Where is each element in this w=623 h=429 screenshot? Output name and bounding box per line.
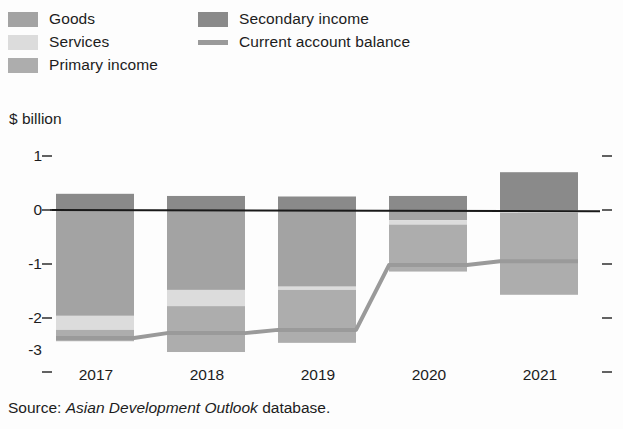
- source-note: Source: Asian Development Outlook databa…: [8, 399, 330, 417]
- y-tick-label: -2: [8, 309, 42, 327]
- chart-plot-area: [0, 0, 623, 429]
- bar-segment: [167, 306, 245, 352]
- source-prefix: Source:: [8, 399, 66, 416]
- x-tick-label-2019: 2019: [278, 366, 358, 384]
- bar-segment: [278, 290, 356, 343]
- x-tick-label-2021: 2021: [500, 366, 580, 384]
- bar-segment: [278, 197, 356, 211]
- x-tick-label-2018: 2018: [167, 366, 247, 384]
- bar-segment: [56, 210, 134, 316]
- y-tick-label: -3: [8, 341, 42, 359]
- y-tick-label: 0: [8, 201, 42, 219]
- bar-segment: [56, 316, 134, 330]
- bar-segment: [167, 210, 245, 290]
- bar-segment: [500, 213, 578, 295]
- bar-segment: [167, 290, 245, 306]
- bar-segment: [389, 196, 467, 210]
- bar-segment: [56, 194, 134, 210]
- zero-baseline: [50, 210, 600, 211]
- bar-segment: [278, 287, 356, 290]
- x-tick-label-2020: 2020: [389, 366, 469, 384]
- bar-segment: [389, 220, 467, 224]
- source-suffix: database.: [258, 399, 330, 416]
- bar-segment: [500, 172, 578, 210]
- y-tick-label: -1: [8, 255, 42, 273]
- bar-segment: [167, 196, 245, 210]
- bar-segment: [278, 210, 356, 287]
- source-publication-title: Asian Development Outlook: [66, 399, 258, 416]
- y-tick-label: 1: [8, 147, 42, 165]
- x-tick-label-2017: 2017: [56, 366, 136, 384]
